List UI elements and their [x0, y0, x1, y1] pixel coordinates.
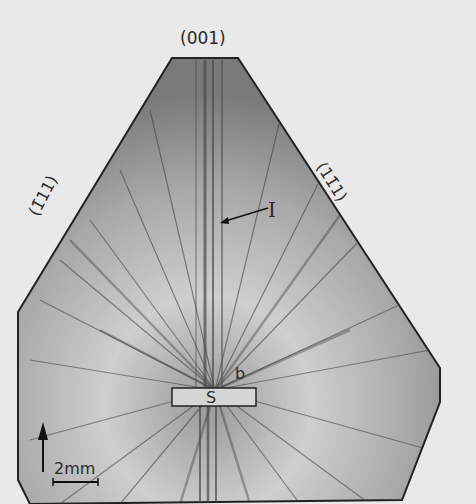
inclusion-label: I [268, 200, 276, 220]
face-label-top: (001) [180, 30, 226, 47]
scale-bar-label: 2mm [54, 461, 95, 477]
boundary-label: b [235, 366, 245, 382]
seed-label: S [206, 390, 216, 406]
topograph-image [0, 0, 476, 504]
